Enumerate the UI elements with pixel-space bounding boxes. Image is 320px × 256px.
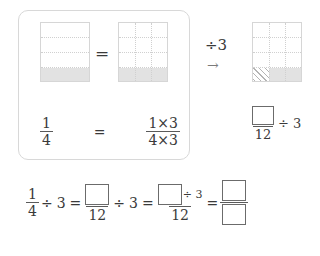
denominator: 4×3 xyxy=(146,131,180,147)
column-divider xyxy=(135,23,136,81)
fraction-box-over-twelve: 12 xyxy=(250,106,276,141)
fraction-box-over-box xyxy=(220,180,248,225)
result-expression: 12 ÷ 3 xyxy=(250,106,303,141)
numerator-answer-box xyxy=(220,180,248,202)
one-fourth-bar-model xyxy=(40,22,90,82)
equals-sign: = xyxy=(140,196,156,210)
denominator: 12 xyxy=(169,206,191,222)
denominator: 12 xyxy=(253,126,274,141)
numerator-answer-box xyxy=(83,184,111,206)
divisor-three: 3 xyxy=(55,196,68,210)
row-divider xyxy=(41,67,89,68)
column-divider xyxy=(285,23,286,81)
answer-box[interactable] xyxy=(222,180,246,201)
divide-operator: ÷ xyxy=(111,196,127,210)
panel-equation: 1 4 = 1×3 4×3 xyxy=(40,116,180,147)
bottom-equation: 1 4 ÷ 3 = 12 ÷ 3 = ÷ 3 12 = xyxy=(26,180,248,225)
row-divider-group xyxy=(41,23,89,81)
divide-by-three-label: ÷3 xyxy=(205,38,227,53)
column-divider xyxy=(151,23,152,81)
equals-sign: = xyxy=(204,196,220,210)
numerator-divide-operator: ÷ 3 xyxy=(182,189,203,200)
denominator: 4 xyxy=(26,202,39,218)
arrow-right-icon: → xyxy=(207,58,219,72)
column-divider xyxy=(269,23,270,81)
fraction-box-over-twelve: 12 xyxy=(83,184,111,222)
denominator: 4 xyxy=(40,131,53,147)
denominator: 12 xyxy=(86,206,108,222)
row-divider xyxy=(41,52,89,53)
numerator: 1 xyxy=(26,187,39,202)
equals-sign: = xyxy=(68,196,84,210)
divide-by-three-operator: ÷ 3 xyxy=(276,117,303,130)
denominator-answer-box xyxy=(220,202,248,225)
divide-operator: ÷ xyxy=(39,196,55,210)
model-equals-sign: = xyxy=(95,45,109,62)
numerator-answer-box xyxy=(250,106,276,126)
numerator: 1 xyxy=(40,116,53,131)
divided-bar-model xyxy=(252,22,302,82)
fraction-box-divided-over-twelve: ÷ 3 12 xyxy=(156,184,205,222)
fraction-one-fourth: 1 4 xyxy=(26,187,39,218)
answer-box[interactable] xyxy=(222,204,246,225)
answer-box[interactable] xyxy=(85,184,109,205)
fraction-one-times-three-over-four-times-three: 1×3 4×3 xyxy=(146,116,180,147)
three-twelfths-bar-model xyxy=(118,22,168,82)
column-divider-group xyxy=(119,23,167,81)
answer-box[interactable] xyxy=(252,106,274,125)
numerator-group: ÷ 3 xyxy=(156,184,205,206)
column-divider-group xyxy=(253,23,301,81)
numerator: 1×3 xyxy=(146,116,180,131)
divisor-three: 3 xyxy=(127,196,140,210)
row-divider xyxy=(41,37,89,38)
equals-sign: = xyxy=(92,125,108,139)
answer-box[interactable] xyxy=(158,184,182,205)
fraction-one-fourth: 1 4 xyxy=(40,116,53,147)
